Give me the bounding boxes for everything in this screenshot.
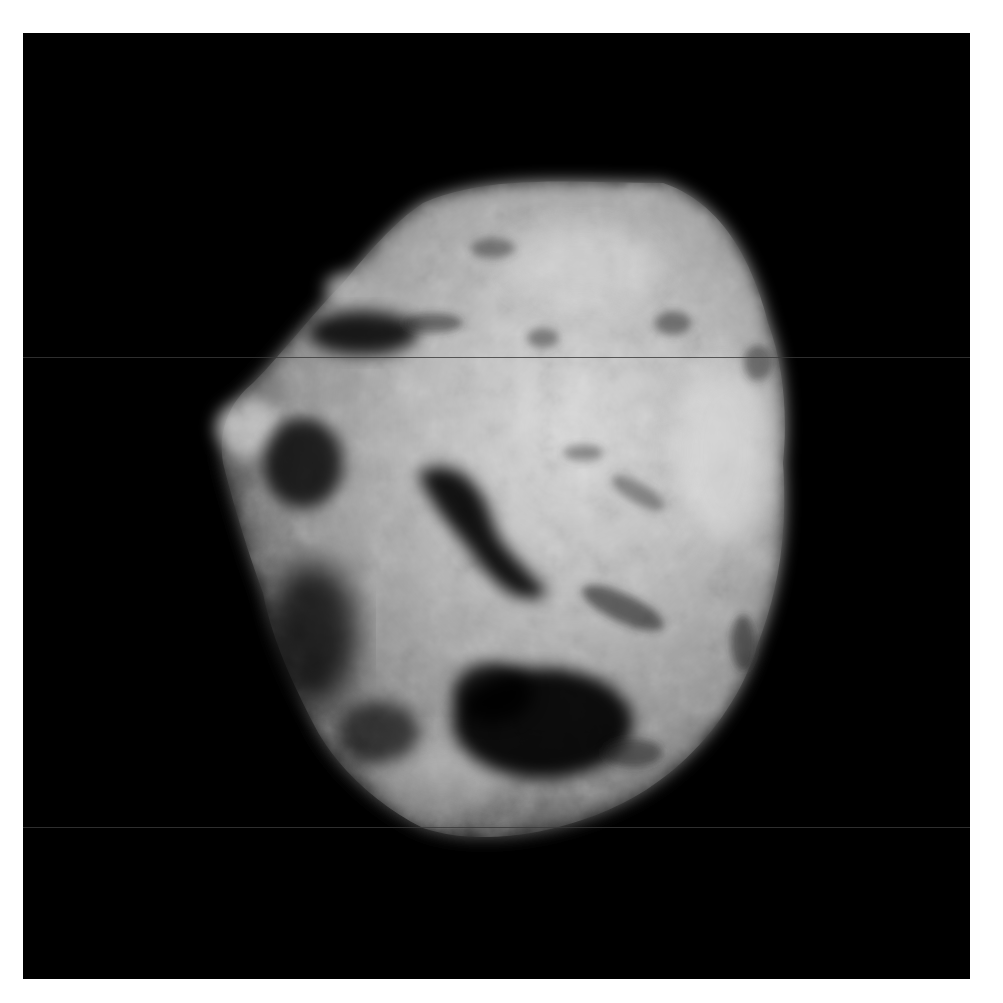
comet-nucleus-image	[23, 33, 970, 979]
page	[0, 0, 1003, 1003]
scanline-artifact	[23, 827, 970, 828]
scanline-artifact	[23, 357, 970, 358]
image-frame	[23, 33, 970, 979]
